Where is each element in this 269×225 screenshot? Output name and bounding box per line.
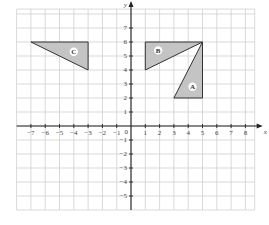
x-tick-label: 3 (172, 129, 176, 137)
y-axis-arrow-icon (129, 1, 134, 7)
x-tick-label: 1 (144, 129, 148, 137)
x-tick-label: 7 (229, 129, 233, 137)
y-tick-label: 1 (124, 108, 128, 116)
y-axis-label: y (123, 1, 128, 9)
x-tick-label: −2 (99, 129, 107, 137)
x-axis-label: x (263, 128, 268, 136)
y-tick-label: 6 (124, 38, 128, 46)
axes: −7−6−5−4−3−2−112345678−5−4−3−2−112345670… (17, 1, 268, 210)
x-tick-label: −5 (56, 129, 64, 137)
origin-label: 0 (125, 128, 129, 136)
x-tick-label: −6 (41, 129, 49, 137)
y-tick-label: −5 (120, 192, 128, 200)
y-tick-label: 5 (124, 52, 128, 60)
grid-lines (17, 9, 255, 210)
x-tick-label: −4 (70, 129, 78, 137)
y-tick-label: −2 (120, 150, 128, 158)
x-axis-arrow-icon (257, 124, 263, 129)
y-tick-label: 4 (124, 66, 128, 74)
y-tick-label: −4 (120, 178, 128, 186)
x-tick-label: 5 (201, 129, 205, 137)
coordinate-grid-diagram: ABC −7−6−5−4−3−2−112345678−5−4−3−2−11234… (0, 0, 269, 225)
shape-label-c: C (71, 48, 76, 56)
y-tick-label: 3 (124, 80, 128, 88)
x-tick-label: 8 (244, 129, 248, 137)
shape-label-b: B (156, 47, 161, 55)
x-tick-label: 2 (158, 129, 162, 137)
shape-label-a: A (190, 83, 195, 91)
x-tick-label: 6 (215, 129, 219, 137)
y-tick-label: 7 (124, 24, 128, 32)
x-tick-label: 4 (186, 129, 190, 137)
x-tick-label: −7 (27, 129, 35, 137)
y-tick-label: −3 (120, 164, 128, 172)
y-tick-label: −1 (120, 136, 128, 144)
x-tick-label: −3 (84, 129, 92, 137)
y-tick-label: 2 (124, 94, 128, 102)
